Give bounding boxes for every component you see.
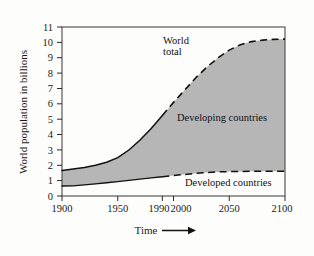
developing-countries-label: Developing countries (177, 112, 267, 123)
x-tick-label-1900: 1900 (52, 203, 73, 214)
developed-countries-label: Developed countries (185, 177, 272, 188)
x-axis-title: Time (135, 224, 158, 236)
y-tick-label-7: 7 (48, 83, 53, 94)
x-tick-label-1990: 1990 (149, 203, 170, 214)
figure-container: 0 1 2 3 4 5 6 7 8 9 10 11 1900 1950 1990 (0, 0, 314, 256)
y-tick-label-8: 8 (48, 68, 53, 79)
y-tick-label-4: 4 (48, 129, 54, 140)
x-tick-label-1950: 1950 (107, 203, 128, 214)
y-tick-label-0: 0 (48, 191, 53, 202)
population-projection-chart: 0 1 2 3 4 5 6 7 8 9 10 11 1900 1950 1990 (0, 0, 314, 256)
y-tick-label-1: 1 (48, 175, 53, 186)
y-tick-label-10: 10 (43, 37, 54, 48)
y-tick-label-9: 9 (48, 52, 53, 63)
y-tick-label-11: 11 (43, 22, 53, 33)
y-tick-label-2: 2 (48, 160, 53, 171)
y-tick-label-6: 6 (48, 98, 53, 109)
x-tick-label-2000: 2000 (171, 203, 192, 214)
x-tick-label-2050: 2050 (219, 203, 240, 214)
world-total-label-line2: total (163, 46, 182, 57)
x-tick-label-2100: 2100 (272, 203, 293, 214)
y-tick-label-3: 3 (48, 145, 53, 156)
y-axis-title: World population in billions (17, 50, 29, 174)
world-total-label-line1: World (163, 35, 190, 46)
y-tick-label-5: 5 (48, 114, 53, 125)
